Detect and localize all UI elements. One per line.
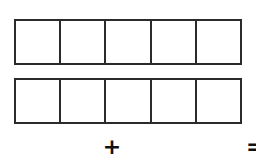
bar-bottom-cell-2[interactable] [61,80,106,122]
plus-operator-symbol: + [96,136,128,158]
bar-top-cell-5[interactable] [197,21,240,63]
bar-top-cell-1[interactable] [16,21,61,63]
equals-operator-symbol: = [246,136,256,158]
bar-top-cell-2[interactable] [61,21,106,63]
bar-top-cell-3[interactable] [106,21,151,63]
bar-model-bottom[interactable] [14,78,242,124]
bar-bottom-cell-5[interactable] [197,80,240,122]
bar-bottom-cell-1[interactable] [16,80,61,122]
bar-model-top[interactable] [14,19,242,65]
bar-top-cell-4[interactable] [152,21,197,63]
bar-bottom-cell-3[interactable] [106,80,151,122]
bar-bottom-cell-4[interactable] [152,80,197,122]
diagram-canvas: + = [0,0,256,163]
